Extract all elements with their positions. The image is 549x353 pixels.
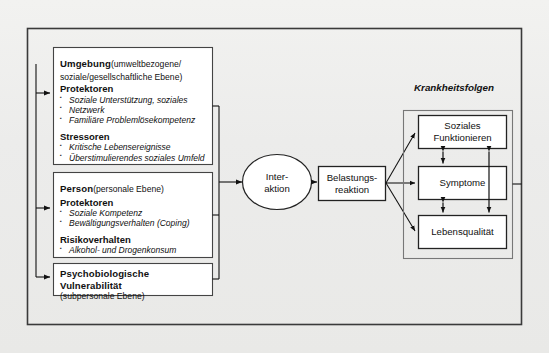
soziales-funktionieren-label: Soziales Funktionieren xyxy=(419,116,506,148)
umgebung-section-stressoren-heading: Stressoren xyxy=(60,131,208,143)
interaktion-label-line2: aktion xyxy=(264,183,290,195)
vulnerabilitaet-title: Psychobiologische Vulnerabilität xyxy=(60,268,210,291)
symptome-label: Symptome xyxy=(419,167,506,199)
person-protektoren-item-2: Bewältigungsverhalten (Coping) xyxy=(60,218,208,228)
diagram-page: Umgebung(umweltbezogene/ soziale/gesells… xyxy=(0,0,549,353)
umgebung-section-protektoren-heading: Protektoren xyxy=(60,83,208,95)
person-section-risiko-heading: Risikoverhalten xyxy=(60,234,208,246)
person-protektoren-item-1: Soziale Kompetenz xyxy=(60,208,208,218)
umgebung-protektoren-item-1-cont-text: Netzwerk xyxy=(69,105,104,115)
person-title-line: Person(personale Ebene) xyxy=(60,177,208,197)
umgebung-protektoren-item-1: Soziale Unterstützung, soziales xyxy=(60,95,208,105)
umgebung-stressoren-item-1: Kritische Lebensereignisse xyxy=(60,142,208,152)
umgebung-protektoren-item-1-cont: Netzwerk xyxy=(60,105,208,115)
umgebung-protektoren-item-2: Familiäre Problemlösekompetenz xyxy=(60,115,208,125)
belastungsreaktion-label: Belastungs- reaktion xyxy=(319,167,385,200)
umgebung-text-block: Umgebung(umweltbezogene/ soziale/gesells… xyxy=(60,52,208,163)
umgebung-title: Umgebung xyxy=(60,58,111,69)
belastungsreaktion-label-line2: reaktion xyxy=(335,184,369,196)
vulnerabilitaet-text-block: Psychobiologische Vulnerabilität (subper… xyxy=(60,268,210,302)
umgebung-stressoren-item-2: Überstimulierendes soziales Umfeld xyxy=(60,153,208,163)
krankheitsfolgen-title: Krankheitsfolgen xyxy=(414,82,494,93)
arrow-reaktion-to-lebensqualitaet xyxy=(386,183,415,231)
umgebung-title-suffix: (umweltbezogene/ xyxy=(111,59,181,69)
person-title-suffix: (personale Ebene) xyxy=(93,184,164,194)
person-section-protektoren-heading: Protektoren xyxy=(60,197,208,209)
arrow-reaktion-to-soziales xyxy=(386,133,415,183)
vulnerabilitaet-title-line2: (subpersonale Ebene) xyxy=(60,291,210,301)
soziales-funktionieren-line2: Funktionieren xyxy=(433,132,491,144)
lebensqualitaet-line1: Lebensqualität xyxy=(431,226,493,238)
soziales-funktionieren-line1: Soziales xyxy=(444,120,480,132)
interaktion-label-line1: Inter- xyxy=(266,171,288,183)
interaktion-label: Inter- aktion xyxy=(243,155,311,210)
umgebung-title-line2: soziale/gesellschaftliche Ebene) xyxy=(60,72,208,82)
person-risiko-item-1: Alkohol- und Drogenkonsum xyxy=(60,245,208,255)
person-title: Person xyxy=(60,183,93,194)
person-text-block: Person(personale Ebene) Protektoren Sozi… xyxy=(60,177,208,256)
symptome-line1: Symptome xyxy=(440,177,486,189)
lebensqualitaet-label: Lebensqualität xyxy=(419,216,506,248)
belastungsreaktion-label-line1: Belastungs- xyxy=(327,172,378,184)
umgebung-title-line: Umgebung(umweltbezogene/ xyxy=(60,52,208,72)
